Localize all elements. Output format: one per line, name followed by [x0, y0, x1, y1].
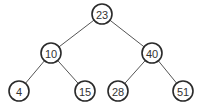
node-label: 28 — [112, 86, 124, 98]
tree-node: 51 — [173, 81, 193, 101]
tree-node: 15 — [75, 81, 95, 101]
node-label: 51 — [177, 86, 189, 98]
node-label: 23 — [96, 9, 108, 21]
tree-node: 28 — [108, 81, 128, 101]
tree-nodes: 2310404152851 — [9, 4, 193, 101]
tree-node: 40 — [142, 43, 162, 63]
tree-edge — [110, 20, 144, 47]
tree-node: 10 — [41, 43, 61, 63]
tree-edge — [158, 61, 176, 84]
tree-node: 4 — [9, 81, 29, 101]
node-label: 15 — [79, 86, 91, 98]
node-label: 40 — [146, 48, 158, 60]
node-label: 10 — [45, 48, 57, 60]
tree-node: 23 — [92, 4, 112, 24]
tree-edge — [59, 20, 94, 47]
tree-edge — [125, 60, 146, 83]
node-label: 4 — [16, 86, 22, 98]
tree-edge — [58, 60, 79, 83]
binary-tree-diagram: 2310404152851 — [0, 0, 204, 110]
tree-edge — [25, 61, 44, 84]
